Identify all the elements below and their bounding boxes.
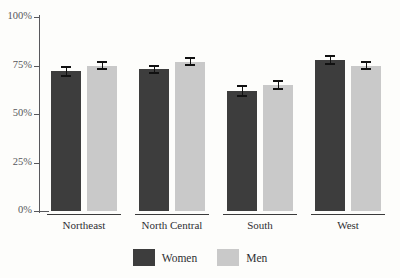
legend-item-women[interactable]: Women	[133, 249, 197, 266]
group-bracket-south	[223, 214, 297, 215]
legend-swatch-women-icon	[133, 249, 155, 266]
group-bracket-west	[311, 214, 385, 215]
y-tick-label-25: 25%	[0, 157, 32, 168]
error-bar-cap-bottom	[149, 72, 159, 74]
x-axis-line	[39, 211, 49, 212]
error-bar-cap-bottom	[273, 88, 283, 90]
plot-area	[40, 17, 392, 211]
y-tick-0	[34, 211, 40, 212]
legend-label-men: Men	[246, 252, 267, 264]
error-bar-cap-top	[273, 80, 283, 82]
y-tick-label-100: 100%	[0, 11, 32, 22]
error-bar-cap-bottom	[97, 68, 107, 70]
x-axis-label-west: West	[304, 219, 392, 231]
chart-title-cropped	[0, 0, 400, 3]
legend-label-women: Women	[162, 252, 197, 264]
legend-swatch-men-icon	[217, 249, 239, 266]
x-axis-label-south: South	[216, 219, 304, 231]
error-bar-cap-top	[149, 65, 159, 67]
error-bar-cap-top	[61, 66, 71, 68]
bar-south-women	[227, 91, 257, 211]
error-bar-cap-bottom	[361, 68, 371, 70]
bar-chart-figure: 100% 75% 50% 25% 0% NortheastNorth Centr…	[0, 0, 400, 278]
error-bar-cap-bottom	[237, 95, 247, 97]
error-bar-cap-top	[361, 61, 371, 63]
error-bar-cap-top	[185, 57, 195, 59]
error-bar-cap-bottom	[325, 63, 335, 65]
error-bar-cap-top	[325, 55, 335, 57]
y-tick-label-75: 75%	[0, 60, 32, 71]
group-bracket-northeast	[47, 214, 121, 215]
x-axis-label-north-central: North Central	[128, 219, 216, 231]
error-bar-cap-top	[237, 85, 247, 87]
y-tick-label-50: 50%	[0, 108, 32, 119]
chart-legend: Women Men	[0, 249, 400, 266]
error-bar-cap-bottom	[185, 64, 195, 66]
legend-item-men[interactable]: Men	[217, 249, 267, 266]
bar-north-central-women	[139, 69, 169, 211]
bar-west-men	[351, 66, 381, 212]
y-tick-label-0: 0%	[0, 205, 32, 216]
x-axis-label-northeast: Northeast	[40, 219, 128, 231]
bar-northeast-men	[87, 66, 117, 212]
error-bar-cap-bottom	[61, 75, 71, 77]
bar-northeast-women	[51, 71, 81, 211]
bar-west-women	[315, 60, 345, 211]
error-bar-cap-top	[97, 61, 107, 63]
group-bracket-north-central	[135, 214, 209, 215]
bar-south-men	[263, 85, 293, 211]
bar-north-central-men	[175, 62, 205, 211]
